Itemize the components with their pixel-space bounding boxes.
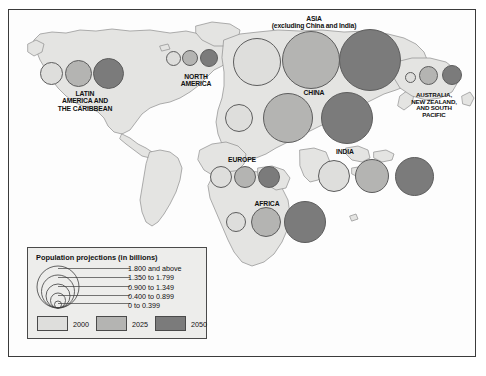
bubble — [40, 62, 63, 85]
region-label: NORTH AMERICA — [181, 73, 212, 88]
bubble — [355, 159, 389, 193]
region-label: AFRICA — [255, 200, 280, 207]
region-label: ASIA (excluding China and India) — [272, 15, 357, 30]
bubble — [233, 38, 281, 86]
legend-size-label: 1.800 and above — [128, 264, 182, 273]
bubble — [65, 60, 92, 87]
legend-size-label: 0 to 0.399 — [128, 301, 160, 310]
legend-swatch — [155, 316, 186, 331]
region-label: AUSTRALIA, NEW ZEALAND, AND SOUTH PACIFI… — [411, 92, 457, 119]
bubble — [318, 160, 350, 192]
legend-size-circle — [37, 266, 79, 308]
legend-swatch-label: 2000 — [73, 320, 89, 329]
legend: Population projections (in billions) 1.8… — [27, 247, 207, 339]
legend-size-label: 0.900 to 1.349 — [128, 283, 174, 292]
bubble — [339, 29, 401, 91]
bubble — [284, 201, 326, 243]
legend-swatch — [37, 316, 68, 331]
legend-swatch-label: 2025 — [132, 320, 148, 329]
legend-title: Population projections (in billions) — [36, 253, 158, 262]
bubble — [225, 104, 253, 132]
legend-size-circle — [46, 284, 70, 308]
region-label: EUROPE — [228, 156, 256, 163]
region-label: INDIA — [336, 148, 354, 155]
region-label: LATIN AMERICA AND THE CARIBBEAN — [58, 90, 112, 112]
bubble — [395, 157, 434, 196]
legend-size-circle — [55, 301, 62, 308]
legend-swatch — [96, 316, 127, 331]
bubble — [419, 66, 438, 85]
bubble — [263, 93, 313, 143]
bubble — [321, 92, 373, 144]
bubble — [210, 166, 232, 188]
bubble — [234, 166, 256, 188]
bubble — [251, 207, 281, 237]
bubble — [282, 31, 340, 89]
bubble — [442, 65, 462, 85]
legend-size-label: 1.350 to 1.799 — [128, 273, 174, 282]
population-projection-map-figure: LATIN AMERICA AND THE CARIBBEANNORTH AME… — [0, 0, 486, 376]
legend-swatch-label: 2050 — [191, 320, 207, 329]
region-label: CHINA — [304, 89, 325, 96]
bubble — [226, 212, 246, 232]
bubble — [166, 51, 181, 66]
legend-size-label: 0.400 to 0.899 — [128, 292, 174, 301]
bubble — [93, 58, 124, 89]
bubble — [405, 72, 416, 83]
bubble — [258, 166, 280, 188]
